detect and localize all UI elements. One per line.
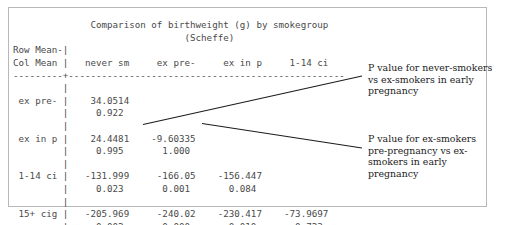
annotation-ex-pre-pregnancy-vs-ex-smokers-early-pregnancy: P value for ex-smokers pre-pregnancy vs … — [368, 133, 496, 179]
scheffe-comparison-table: Comparison of birthweight (g) by smokegr… — [13, 19, 345, 225]
screenshot-root: Comparison of birthweight (g) by smokegr… — [0, 0, 505, 225]
annotation-never-vs-ex-smokers-early-pregnancy: P value for never-smokers vs ex-smokers … — [368, 62, 496, 97]
